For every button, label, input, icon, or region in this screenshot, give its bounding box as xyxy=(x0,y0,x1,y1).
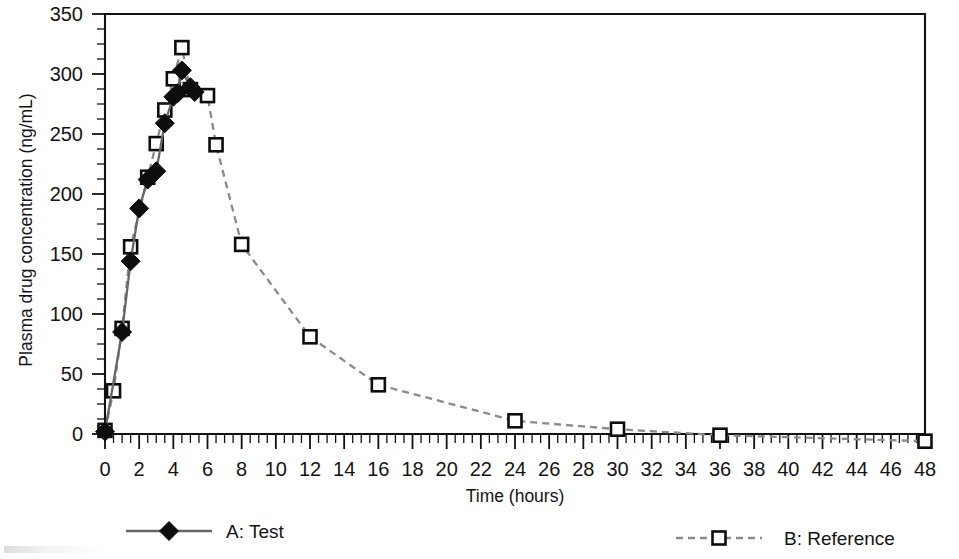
x-tick-label: 6 xyxy=(202,458,213,480)
x-tick-label: 12 xyxy=(299,458,321,480)
data-point-square xyxy=(210,138,223,151)
y-axis-title: Plasma drug concentration (ng/mL) xyxy=(16,93,36,366)
data-point-square xyxy=(304,330,317,343)
x-tick-label: 34 xyxy=(675,458,697,480)
data-point-square xyxy=(175,41,188,54)
x-tick-label: 10 xyxy=(265,458,287,480)
scan-edge-artifact xyxy=(4,546,108,553)
x-tick-label: 40 xyxy=(777,458,799,480)
open-square-icon xyxy=(713,532,726,545)
data-point-square xyxy=(714,429,727,442)
axis-frame xyxy=(105,14,925,434)
data-point-square xyxy=(611,423,624,436)
y-axis-tick-labels: 050100150200250300350 xyxy=(50,3,83,445)
legend-item-a-test[interactable]: A: Test xyxy=(126,521,284,542)
x-tick-label: 30 xyxy=(606,458,628,480)
x-tick-label: 14 xyxy=(333,458,355,480)
x-axis-tick-labels: 0246810121416182022242628303234363840424… xyxy=(99,458,936,480)
y-tick-label: 0 xyxy=(72,423,83,445)
x-axis-ticks xyxy=(105,434,925,449)
y-tick-label: 200 xyxy=(50,183,83,205)
series-line xyxy=(105,70,195,431)
chart-container: 050100150200250300350 024681012141618202… xyxy=(0,0,959,559)
legend: A: Test B: Reference xyxy=(126,521,895,549)
x-tick-label: 48 xyxy=(914,458,936,480)
legend-label-b-reference: B: Reference xyxy=(784,528,895,549)
x-tick-label: 24 xyxy=(504,458,526,480)
x-tick-label: 42 xyxy=(811,458,833,480)
y-axis-ticks xyxy=(92,14,105,434)
x-tick-label: 32 xyxy=(641,458,663,480)
data-point-square xyxy=(919,435,932,448)
x-tick-label: 16 xyxy=(367,458,389,480)
x-tick-label: 4 xyxy=(168,458,179,480)
x-tick-label: 44 xyxy=(846,458,868,480)
y-tick-label: 100 xyxy=(50,303,83,325)
x-tick-label: 26 xyxy=(538,458,560,480)
legend-label-a-test: A: Test xyxy=(226,521,284,542)
x-tick-label: 20 xyxy=(436,458,458,480)
x-tick-label: 28 xyxy=(572,458,594,480)
legend-item-b-reference[interactable]: B: Reference xyxy=(676,528,895,549)
plasma-concentration-line-chart: 050100150200250300350 024681012141618202… xyxy=(0,0,959,559)
data-point-square xyxy=(509,414,522,427)
x-tick-label: 22 xyxy=(470,458,492,480)
x-tick-label: 18 xyxy=(401,458,423,480)
x-tick-label: 8 xyxy=(236,458,247,480)
x-axis-title: Time (hours) xyxy=(466,486,565,506)
x-tick-label: 0 xyxy=(99,458,110,480)
x-tick-label: 2 xyxy=(134,458,145,480)
x-tick-label: 46 xyxy=(880,458,902,480)
y-tick-label: 150 xyxy=(50,243,83,265)
y-tick-label: 350 xyxy=(50,3,83,25)
filled-diamond-icon xyxy=(160,522,179,541)
y-tick-label: 50 xyxy=(61,363,83,385)
series-b-reference xyxy=(99,41,932,448)
data-point-square xyxy=(372,378,385,391)
x-tick-label: 38 xyxy=(743,458,765,480)
series-line xyxy=(105,48,925,442)
x-tick-label: 36 xyxy=(709,458,731,480)
y-tick-label: 300 xyxy=(50,63,83,85)
data-point-square xyxy=(235,238,248,251)
y-tick-label: 250 xyxy=(50,123,83,145)
data-point-diamond xyxy=(130,199,149,218)
